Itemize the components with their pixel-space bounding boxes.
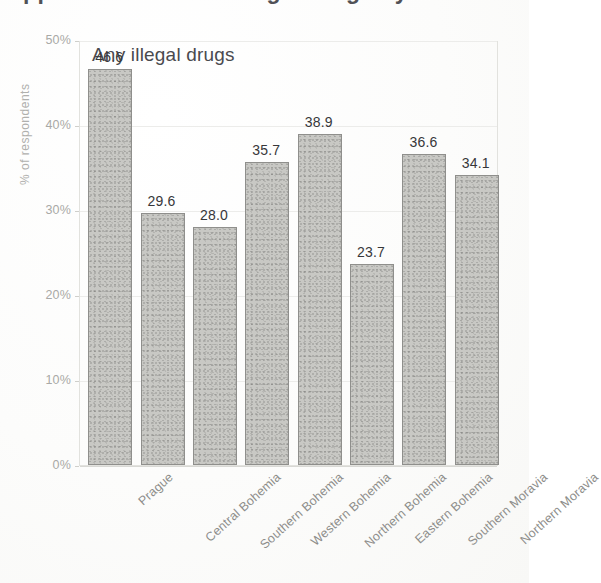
bar-value-label: 23.7 [343, 244, 399, 260]
x-axis-category-label: Prague [136, 470, 176, 508]
bar[interactable] [350, 264, 394, 465]
bar[interactable] [88, 69, 132, 465]
bar[interactable] [298, 134, 342, 465]
bar[interactable] [193, 227, 237, 465]
y-axis-tick-label: 50% [0, 33, 79, 47]
bar-value-label: 46.6 [81, 49, 137, 65]
gridline-40 [80, 126, 497, 127]
y-axis-tick-label: 20% [0, 288, 79, 302]
bar[interactable] [455, 175, 499, 465]
y-axis-tick-text: 10% [45, 373, 79, 387]
bar[interactable] [245, 162, 289, 465]
bar[interactable] [141, 213, 185, 465]
y-axis-title: % of respondents [18, 84, 32, 185]
gridline-0 [80, 466, 497, 467]
y-axis-tick-text: 30% [45, 203, 79, 217]
y-axis-tick-text: 50% [45, 33, 79, 47]
bar-value-label: 38.9 [291, 114, 347, 130]
bar[interactable] [402, 154, 446, 465]
plot-area [79, 41, 498, 466]
y-axis-tick-label: 0% [0, 458, 79, 472]
y-axis-tick-mark [75, 466, 79, 467]
bar-value-label: 29.6 [134, 193, 190, 209]
y-axis-tick-text: 20% [45, 288, 79, 302]
y-axis-tick-label: 30% [0, 203, 79, 217]
y-axis-tick-text: 0% [53, 458, 79, 472]
y-axis-tick-text: 40% [45, 118, 79, 132]
bar-value-label: 36.6 [395, 134, 451, 150]
y-axis-tick-label: 40% [0, 118, 79, 132]
y-axis-tick-label: 10% [0, 373, 79, 387]
gridline-50 [80, 41, 497, 42]
bar-value-label: 35.7 [238, 142, 294, 158]
bar-value-label: 28.0 [186, 207, 242, 223]
bar-value-label: 34.1 [448, 155, 504, 171]
